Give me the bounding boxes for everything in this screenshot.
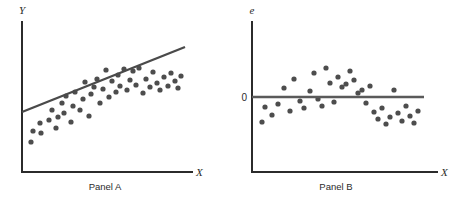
scatter-point	[82, 79, 87, 84]
scatter-point	[150, 69, 155, 74]
scatter-point	[387, 114, 392, 119]
scatter-point	[168, 70, 173, 75]
scatter-point	[391, 87, 396, 92]
scatter-point	[133, 82, 138, 87]
scatter-point	[297, 98, 302, 103]
scatter-point	[347, 68, 352, 73]
scatter-point	[109, 78, 114, 83]
scatter-point	[161, 74, 166, 79]
scatter-point	[143, 76, 148, 81]
scatter-point	[343, 81, 348, 86]
scatter-point	[46, 117, 51, 122]
scatter-point	[53, 125, 58, 130]
scatter-point	[301, 105, 306, 110]
scatter-point	[113, 89, 118, 94]
scatter-point	[103, 67, 108, 72]
scatter-point	[331, 99, 336, 104]
scatter-point	[399, 118, 404, 123]
scatter-point	[38, 130, 43, 135]
scatter-point	[172, 78, 177, 83]
scatter-point	[375, 116, 380, 121]
scatter-point	[30, 128, 35, 133]
scatter-point	[269, 112, 274, 117]
scatter-point	[28, 139, 33, 144]
scatter-point	[49, 107, 54, 112]
scatter-point	[411, 120, 416, 125]
scatter-point	[88, 91, 93, 96]
panel-a-x-axis-label: X	[195, 166, 204, 178]
scatter-point	[117, 83, 122, 88]
scatter-point	[403, 103, 408, 108]
scatter-point	[59, 100, 64, 105]
scatter-point	[97, 100, 102, 105]
scatter-point	[77, 107, 82, 112]
scatter-point	[147, 84, 152, 89]
scatter-point	[407, 113, 412, 118]
scatter-point	[275, 101, 280, 106]
scatter-point	[140, 90, 145, 95]
scatter-point	[291, 76, 296, 81]
panel-b-x-axis-label: X	[440, 166, 449, 178]
scatter-point	[281, 85, 286, 90]
scatter-point	[379, 105, 384, 110]
scatter-point	[363, 100, 368, 105]
scatter-point	[367, 83, 372, 88]
two-panel-scatter-figure: Y X Panel A e X 0 Panel B	[0, 0, 453, 202]
scatter-point	[311, 70, 316, 75]
scatter-point	[359, 87, 364, 92]
scatter-point	[383, 121, 388, 126]
scatter-point	[259, 119, 264, 124]
scatter-point	[55, 114, 60, 119]
scatter-point	[323, 65, 328, 70]
scatter-point	[154, 80, 159, 85]
scatter-point	[351, 77, 356, 82]
scatter-point	[371, 109, 376, 114]
scatter-point	[61, 110, 66, 115]
scatter-point	[175, 85, 180, 90]
scatter-point	[100, 86, 105, 91]
scatter-point	[80, 96, 85, 101]
scatter-point	[327, 80, 332, 85]
scatter-point	[106, 94, 111, 99]
scatter-point	[307, 88, 312, 93]
scatter-point	[415, 108, 420, 113]
scatter-point	[70, 103, 75, 108]
scatter-point	[165, 83, 170, 88]
scatter-point	[319, 103, 324, 108]
scatter-point	[124, 87, 129, 92]
scatter-point	[68, 119, 73, 124]
scatter-point	[86, 113, 91, 118]
scatter-point	[37, 120, 42, 125]
scatter-point	[127, 77, 132, 82]
scatter-point	[157, 87, 162, 92]
scatter-point	[287, 108, 292, 113]
panel-b-zero-tick-label: 0	[241, 92, 247, 103]
panel-a-caption: Panel A	[89, 181, 122, 192]
panel-b-caption: Panel B	[319, 181, 352, 192]
scatter-point	[262, 104, 267, 109]
scatter-point	[178, 73, 183, 78]
scatter-point	[335, 74, 340, 79]
panel-b-y-axis-label: e	[250, 4, 255, 16]
scatter-point	[395, 110, 400, 115]
